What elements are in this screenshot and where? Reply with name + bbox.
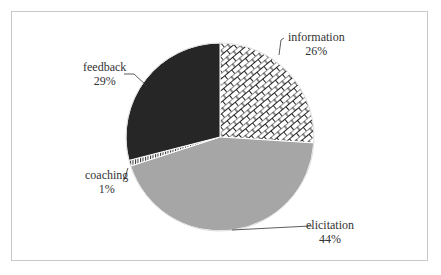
label-information-name: information	[288, 30, 345, 44]
label-coaching-name: coaching	[85, 168, 128, 182]
pie-slices	[126, 43, 314, 231]
label-information-pct: 26%	[288, 44, 345, 58]
pie-chart	[0, 0, 441, 275]
label-information: information 26%	[288, 30, 345, 58]
label-feedback: feedback 29%	[83, 60, 126, 88]
label-feedback-name: feedback	[83, 60, 126, 74]
label-feedback-pct: 29%	[83, 74, 126, 88]
label-elicitation-pct: 44%	[306, 232, 354, 246]
label-coaching: coaching 1%	[85, 168, 128, 196]
label-elicitation-name: elicitation	[306, 218, 354, 232]
label-coaching-pct: 1%	[85, 182, 128, 196]
label-elicitation: elicitation 44%	[306, 218, 354, 246]
leader-line-information	[279, 38, 284, 55]
